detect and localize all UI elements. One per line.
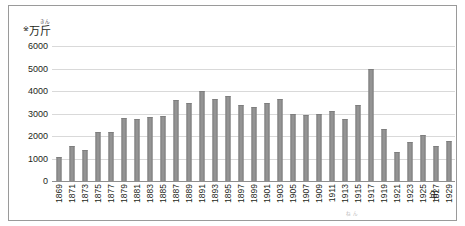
x-axis-tick-label: 1889 [184,184,193,203]
chart-frame: ※ 万 きん 斤 6000500040003000200010000 18691… [8,5,457,221]
x-axis-tick-label: 1893 [210,184,219,203]
bar[interactable] [368,69,373,182]
x-axis-tick-label: 1929 [444,184,453,203]
bar-series: 1869187118731875187718791881188318851887… [52,46,455,181]
bar[interactable] [147,117,152,181]
bar-slot: 1909 [312,46,325,181]
y-axis-unit-kin: きん 斤 [40,19,51,37]
chart-page: ※ 万 きん 斤 6000500040003000200010000 18691… [0,0,465,226]
bar-slot: 1907 [299,46,312,181]
bar-slot: 1885 [156,46,169,181]
bar[interactable] [394,152,399,181]
x-axis-tick-label: 1923 [405,184,414,203]
x-axis-tick-label: 1903 [275,184,284,203]
bar[interactable] [199,91,204,181]
bar-slot: 1891 [195,46,208,181]
bar-slot: 1877 [104,46,117,181]
bar-slot: 1879 [117,46,130,181]
x-axis-tick-label: 1911 [327,184,336,202]
x-axis-tick-label: 1897 [236,184,245,203]
bar[interactable] [238,105,243,182]
y-axis-tick-label: 3000 [28,109,48,118]
bar[interactable] [69,146,74,181]
x-axis-tick-label: 1899 [249,184,258,203]
bar[interactable] [303,115,308,181]
x-axis-tick-label: 1871 [67,184,76,203]
bar[interactable] [277,99,282,181]
y-axis-tick-label: 6000 [28,42,48,51]
bar[interactable] [121,118,126,181]
gridline-0: 0 [52,181,455,182]
bar[interactable] [134,119,139,181]
y-axis-tick-label: 5000 [28,64,48,73]
bar-slot: 1927 [429,46,442,181]
bar[interactable] [160,116,165,181]
x-axis-tick-label: 1907 [301,184,310,203]
y-axis-tick-label: 0 [43,177,48,186]
x-axis-tick-label: 1913 [340,184,349,203]
x-axis-tick-label: 1883 [145,184,154,203]
bar[interactable] [446,141,451,182]
bottom-furigana-note: ねん [346,212,360,217]
bar[interactable] [433,146,438,181]
bar[interactable] [95,132,100,182]
bar[interactable] [355,105,360,182]
bar[interactable] [264,103,269,181]
x-axis-tick-label: 1873 [80,184,89,203]
bar[interactable] [407,142,412,181]
bar-slot: 1869 [52,46,65,181]
y-axis-unit-kin-kanji: 斤 [40,25,51,37]
bar-slot: 1919 [377,46,390,181]
bar-slot: 1901 [260,46,273,181]
bar-slot: 1915 [351,46,364,181]
bar-slot: 1887 [169,46,182,181]
x-axis-tick-label: 1885 [158,184,167,203]
bar-slot: 1911 [325,46,338,181]
y-axis-tick-label: 4000 [28,87,48,96]
bar[interactable] [186,103,191,181]
bar-slot: 1925 [416,46,429,181]
bar[interactable] [225,96,230,182]
y-axis-tick-label: 1000 [28,154,48,163]
bar[interactable] [290,114,295,182]
bar[interactable] [173,100,178,181]
x-axis-tick-label: 1875 [93,184,102,203]
bar-slot: 1895 [221,46,234,181]
x-axis-tick-label: 1891 [197,184,206,203]
bar[interactable] [381,129,386,181]
bar[interactable] [251,107,256,181]
bar-slot: 1897 [234,46,247,181]
bar[interactable] [316,114,321,182]
bar-slot: 1923 [403,46,416,181]
bar[interactable] [342,119,347,181]
bar[interactable] [108,132,113,182]
y-axis-tick-label: 2000 [28,132,48,141]
x-axis-tick-label: 1917 [366,184,375,203]
bar-slot: 1899 [247,46,260,181]
x-axis-tick-label: 1919 [379,184,388,203]
bar[interactable] [420,135,425,181]
y-axis-unit-label: ※ 万 きん 斤 [23,15,51,37]
plot-area: 6000500040003000200010000 18691871187318… [52,46,455,181]
bar-slot: 1913 [338,46,351,181]
bar[interactable] [329,111,334,181]
bar-slot: 1881 [130,46,143,181]
y-axis-unit-man: 万 [29,25,40,37]
x-axis-tick-label: 1887 [171,184,180,203]
x-axis-tick-label: 1915 [353,184,362,203]
x-axis-tick-label: 1869 [54,184,63,203]
x-axis-tick-label: 1925 [418,184,427,203]
bar[interactable] [82,150,87,182]
bar-slot: 1893 [208,46,221,181]
bar-slot: 1875 [91,46,104,181]
bar-slot: 1905 [286,46,299,181]
bar-slot: 1929 [442,46,455,181]
bar-slot: 1903 [273,46,286,181]
bar-slot: 1889 [182,46,195,181]
bar[interactable] [56,157,61,181]
x-axis-tick-label: 1879 [119,184,128,203]
x-axis-tick-label: 1877 [106,184,115,203]
x-axis-tick-label: 1909 [314,184,323,203]
bar[interactable] [212,99,217,181]
x-axis-tick-label: 1881 [132,184,141,203]
